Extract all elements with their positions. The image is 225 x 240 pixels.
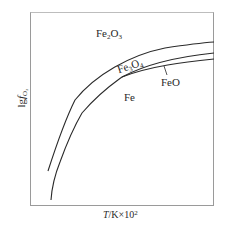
curve-fe3o4-feo: [51, 53, 214, 200]
x-axis-label: T/K×102: [103, 209, 138, 220]
region-label-fe: Fe: [124, 92, 135, 103]
y-axis-label: lgfO₂: [15, 81, 27, 115]
feo-leader-line: [164, 66, 167, 75]
region-label-feo: FeO: [161, 77, 180, 88]
region-label-fe2o3: Fe2O3: [96, 28, 122, 41]
